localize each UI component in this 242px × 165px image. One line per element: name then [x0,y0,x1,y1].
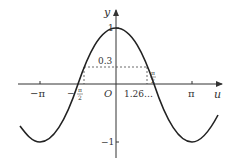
origin-label: O [104,88,112,99]
x-axis-label: u [214,88,221,101]
svg-text:−: − [67,88,75,98]
svg-text:π: π [78,86,82,93]
tick-label-neg-pi: −π [30,88,45,99]
svg-text:π: π [151,69,155,76]
y-axis-label: y [103,6,111,19]
svg-text:2: 2 [151,77,155,84]
y-tick-label-1: 1 [108,23,114,33]
tick-label-half-pi: π 2 [150,69,156,84]
svg-text:2: 2 [78,94,82,101]
level-label: 0.3 [98,56,113,66]
y-tick-label-neg1: −1 [101,137,114,147]
cosine-diagram: y u O −π π − π 2 π 2 0.3 1.26… 1 −1 [0,0,242,165]
tick-label-pi: π [188,88,195,99]
cosine-curve [20,28,218,142]
intersection-label: 1.26… [124,89,153,99]
